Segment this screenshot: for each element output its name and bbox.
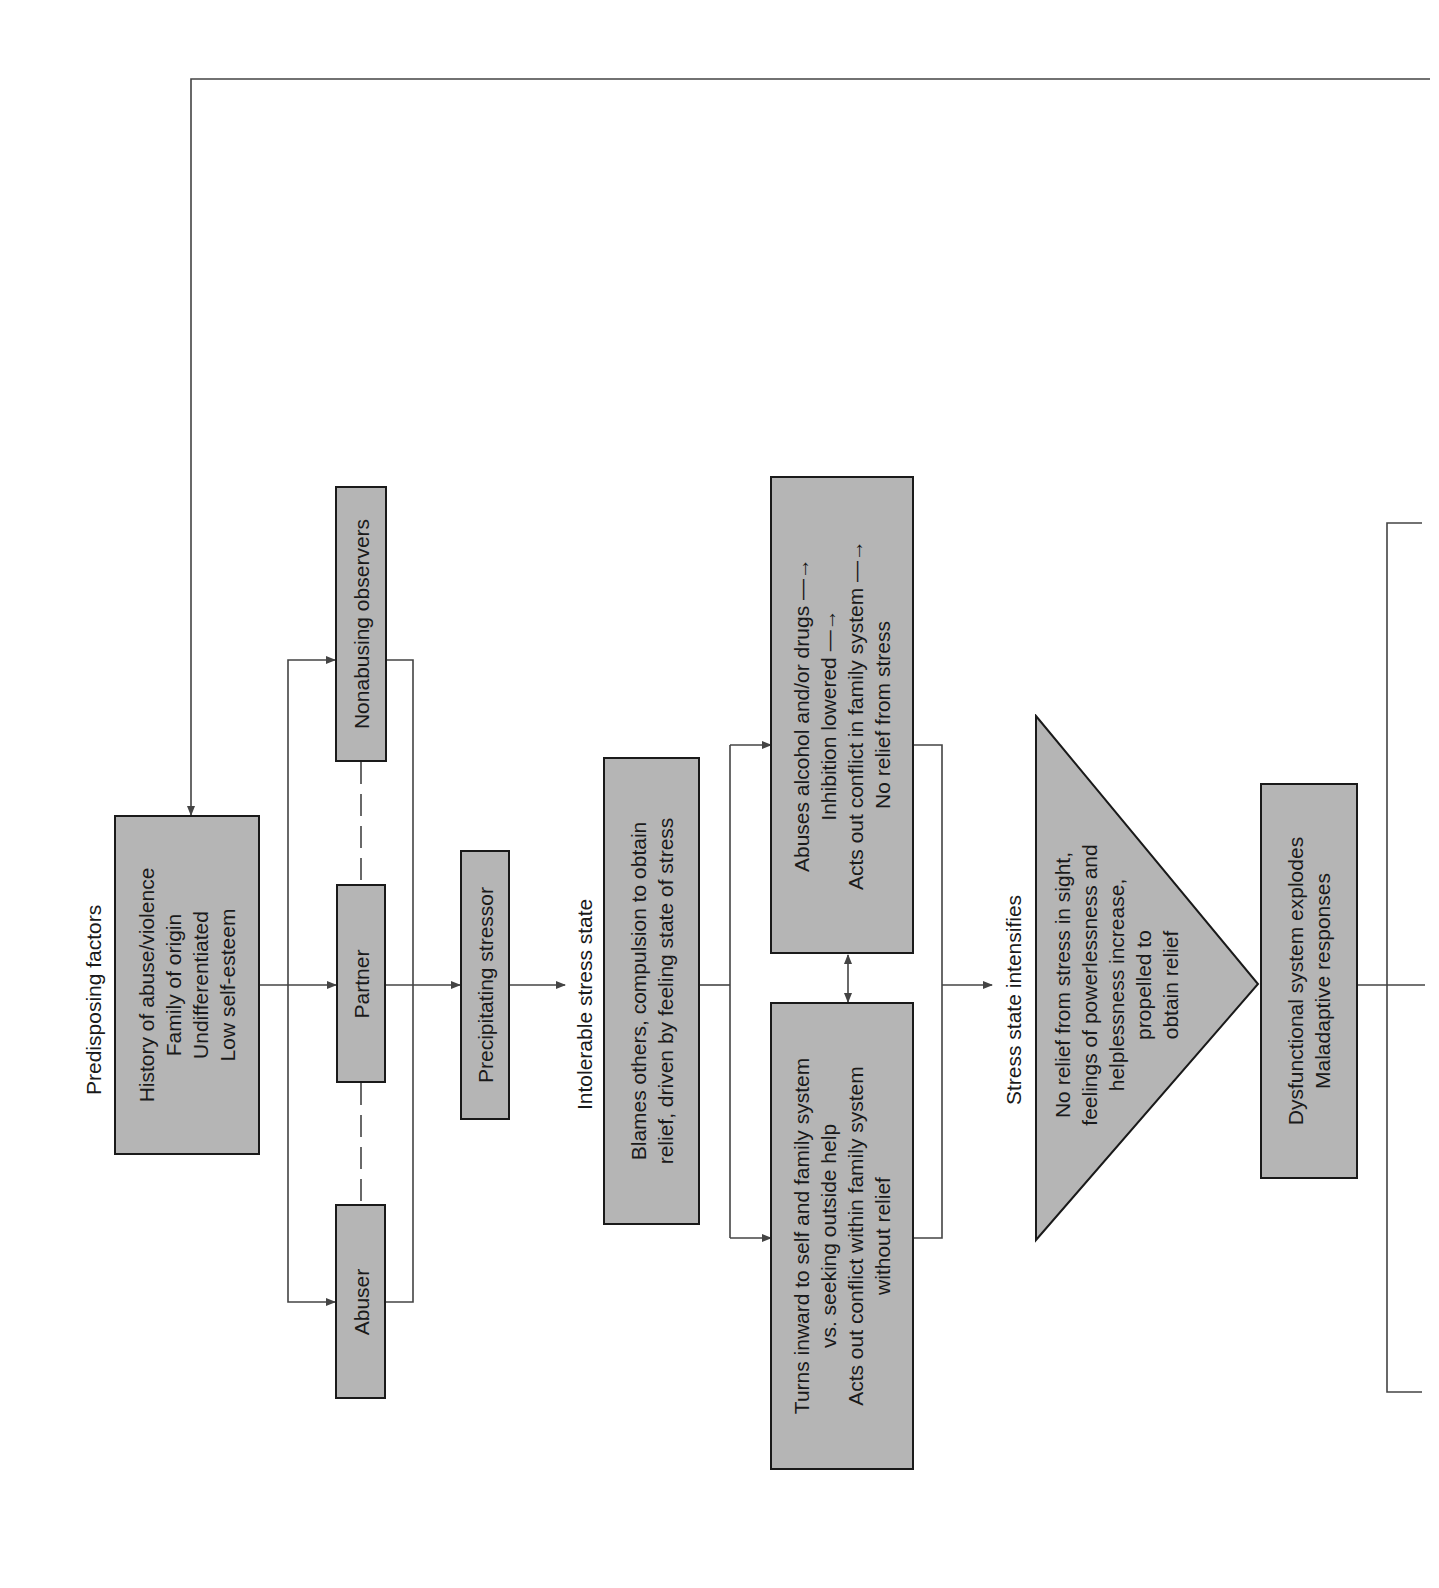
precipitating-text: Precipitating stressor — [472, 887, 499, 1083]
line: propelled to — [1130, 844, 1157, 1125]
line: obtain relief — [1157, 844, 1184, 1125]
line: feelings of powerlessness and — [1076, 844, 1103, 1125]
line: Undifferentiated — [187, 868, 214, 1103]
predisposing-factors-label: Predisposing factors — [82, 905, 106, 1095]
line: Abuses alcohol and/or drugs —→ — [788, 540, 815, 890]
dysfunctional-system-box: Dysfunctional system explodes Maladaptiv… — [1260, 783, 1358, 1179]
blames-text: Blames others, compulsion to obtain reli… — [625, 818, 679, 1165]
line: No relief from stress in sight, — [1049, 844, 1076, 1125]
line: Dysfunctional system explodes — [1282, 837, 1309, 1125]
line: Acts out conflict within family system — [842, 1058, 869, 1414]
abuser-text: Abuser — [347, 1268, 374, 1335]
line: Inhibition lowered —→ — [815, 540, 842, 890]
stress-intensifies-label: Stress state intensifies — [1002, 895, 1026, 1105]
history-text: History of abuse/violence Family of orig… — [133, 868, 241, 1103]
line: Acts out conflict in family system —→ — [842, 540, 869, 890]
abuses-alcohol-box: Abuses alcohol and/or drugs —→ Inhibitio… — [770, 476, 914, 954]
abuser-box: Abuser — [335, 1204, 386, 1399]
line: No relief from stress — [869, 540, 896, 890]
line: vs. seeking outside help — [815, 1058, 842, 1414]
dysfunctional-text: Dysfunctional system explodes Maladaptiv… — [1282, 837, 1336, 1125]
outcome-bracket — [1387, 523, 1422, 1392]
triangle-text: No relief from stress in sight, feelings… — [1049, 844, 1184, 1125]
intolerable-stress-label: Intolerable stress state — [573, 899, 597, 1110]
line: Blames others, compulsion to obtain — [625, 818, 652, 1165]
line: relief, driven by feeling state of stres… — [652, 818, 679, 1165]
abuses-text: Abuses alcohol and/or drugs —→ Inhibitio… — [788, 540, 896, 890]
blames-others-box: Blames others, compulsion to obtain reli… — [603, 757, 700, 1225]
line: Low self-esteem — [214, 868, 241, 1103]
precipitating-stressor-box: Precipitating stressor — [460, 850, 510, 1120]
partner-box: Partner — [336, 884, 386, 1083]
line: without relief — [869, 1058, 896, 1414]
line: helplessness increase, — [1103, 844, 1130, 1125]
turns-inward-box: Turns inward to self and family system v… — [770, 1002, 914, 1470]
line: Family of origin — [160, 868, 187, 1103]
triangle-text-wrap: No relief from stress in sight, feelings… — [1036, 740, 1196, 1230]
line: Turns inward to self and family system — [788, 1058, 815, 1414]
nonabusing-observers-box: Nonabusing observers — [335, 486, 387, 762]
nonabusing-text: Nonabusing observers — [348, 519, 375, 729]
turns-text: Turns inward to self and family system v… — [788, 1058, 896, 1414]
line: Maladaptive responses — [1309, 837, 1336, 1125]
partner-text: Partner — [348, 949, 375, 1018]
predisposing-factors-box: History of abuse/violence Family of orig… — [114, 815, 260, 1155]
line: History of abuse/violence — [133, 868, 160, 1103]
